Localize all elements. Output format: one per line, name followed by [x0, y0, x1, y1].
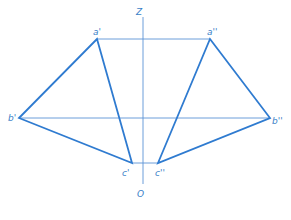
point-label-c-side: c'': [155, 168, 165, 178]
axis-label-z: Z: [135, 7, 143, 17]
front-view-triangle: [19, 39, 132, 163]
point-label-a-front: a': [93, 27, 101, 37]
point-label-b-side: b'': [272, 116, 283, 126]
axis-label-o: O: [137, 189, 144, 199]
side-view-triangle: [158, 39, 270, 163]
point-label-b-front: b': [8, 113, 16, 123]
projection-diagram: Z O a' a'' b' b'' c' c'': [0, 0, 291, 220]
point-label-c-front: c': [122, 168, 129, 178]
point-label-a-side: a'': [207, 27, 217, 37]
